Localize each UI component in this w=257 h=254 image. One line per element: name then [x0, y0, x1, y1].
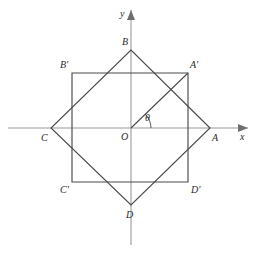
- radius-segment-o-to-a-prime: [131, 73, 188, 128]
- vertex-label-b: B: [122, 36, 128, 47]
- y-axis-label: y: [119, 8, 125, 19]
- vertex-label-c-prime: C': [60, 184, 70, 195]
- origin-label-o: O: [121, 131, 128, 142]
- geometry-figure-svg: x y θ O A B C D A' B' C' D': [0, 0, 257, 254]
- vertex-label-a: A: [211, 132, 219, 143]
- x-axis-label: x: [239, 131, 245, 142]
- vertex-label-a-prime: A': [189, 59, 199, 70]
- vertex-label-c: C: [41, 132, 48, 143]
- y-axis-arrow-icon: [127, 10, 135, 20]
- theta-angle-label: θ: [145, 112, 150, 123]
- vertex-label-d-prime: D': [190, 184, 201, 195]
- vertex-label-b-prime: B': [60, 59, 69, 70]
- geometry-diagram: x y θ O A B C D A' B' C' D': [0, 0, 257, 254]
- vertex-label-d: D: [125, 209, 134, 220]
